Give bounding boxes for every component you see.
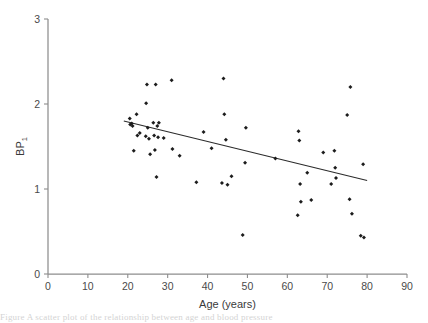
x-tick-label: 40 [202,280,214,292]
scatter-marker [305,171,309,175]
scatter-marker [148,152,152,156]
scatter-marker [359,234,363,238]
scatter-marker [321,150,325,154]
scatter-marker [297,139,301,143]
scatter-marker [145,82,149,86]
regression-line-segment [124,121,367,181]
plot-canvas: 01020304050607080900123 Age (years)BP1 [0,0,428,323]
scatter-marker [329,182,333,186]
x-tick-label: 20 [122,280,134,292]
scatter-marker [162,136,166,140]
figure-caption: Figure A scatter plot of the relationshi… [0,311,428,323]
scatter-marker [226,183,230,187]
scatter-marker [135,133,139,137]
y-axis-title: BP1 [14,137,29,156]
scatter-marker [138,131,142,135]
scatter-marker [170,147,174,151]
scatter-marker [361,162,365,166]
scatter-marker [154,175,158,179]
scatter-marker [210,146,214,150]
scatter-marker [224,138,228,142]
scatter-marker [135,112,139,116]
scatter-marker [299,200,303,204]
scatter-marker [350,212,354,216]
scatter-marker [155,124,159,128]
scatter-marker [333,166,337,170]
scatter-marker [147,137,151,141]
scatter-marker [156,135,160,139]
scatter-marker [241,233,245,237]
scatter-marker [244,126,248,130]
scatter-marker [178,154,182,158]
scatter-marker [154,82,158,86]
scatter-marker [194,180,198,184]
scatter-marker [132,149,136,153]
scatter-marker [348,85,352,89]
x-tick-label: 10 [82,280,94,292]
scatter-marker [309,198,313,202]
scatter-marker [128,116,132,120]
scatter-marker [151,121,155,125]
scatter-marker [157,121,161,125]
data-points [128,77,366,240]
scatter-marker [297,129,301,133]
scatter-marker [144,134,148,138]
x-tick-label: 60 [281,280,293,292]
y-tick-label: 3 [34,13,40,25]
scatter-marker [345,113,349,117]
x-axis-title: Age (years) [199,298,256,310]
regression-line [124,121,367,181]
scatter-marker [222,112,226,116]
scatter-marker [334,176,338,180]
scatter-marker [202,130,206,134]
scatter-marker [243,161,247,165]
x-tick-label: 70 [321,280,333,292]
scatter-marker [332,149,336,153]
scatter-marker [348,197,352,201]
scatter-marker [273,156,277,160]
y-tick-label: 0 [34,268,40,280]
scatter-marker [170,78,174,82]
axes: 01020304050607080900123 [34,13,413,292]
y-tick-label: 1 [34,183,40,195]
scatter-marker [222,77,226,81]
scatter-marker [229,174,233,178]
scatter-plot-figure: 01020304050607080900123 Age (years)BP1 F… [0,0,428,323]
x-tick-label: 0 [45,280,51,292]
scatter-marker [220,181,224,185]
scatter-marker [152,133,156,137]
x-tick-label: 30 [162,280,174,292]
scatter-marker [362,235,366,239]
scatter-marker [298,182,302,186]
scatter-marker [296,213,300,217]
x-tick-label: 90 [401,280,413,292]
y-tick-label: 2 [34,98,40,110]
x-tick-label: 80 [361,280,373,292]
x-tick-label: 50 [242,280,254,292]
scatter-marker [144,101,148,105]
scatter-marker [153,148,157,152]
